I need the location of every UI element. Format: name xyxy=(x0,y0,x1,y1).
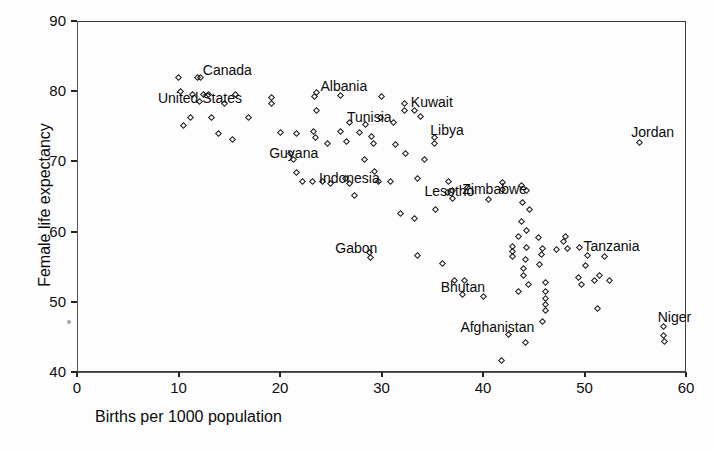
x-tick-label: 50 xyxy=(565,380,605,396)
x-tick-mark xyxy=(178,372,180,377)
y-tick-mark xyxy=(71,90,77,92)
chart-canvas: 405060708090 0102030405060 CanadaUnited … xyxy=(0,0,714,451)
point-label: Kuwait xyxy=(411,95,453,109)
point-label: Libya xyxy=(430,123,463,137)
y-tick-mark xyxy=(71,231,77,233)
point-label: Canada xyxy=(203,63,252,77)
point-label: Zimbabwe xyxy=(462,182,527,196)
point-label: Niger xyxy=(658,310,691,324)
y-axis-line xyxy=(77,21,78,373)
x-tick-label: 20 xyxy=(260,380,300,396)
y-tick-mark xyxy=(71,20,77,22)
x-tick-mark xyxy=(279,372,281,377)
point-label: Jordan xyxy=(631,125,674,139)
point-label: United States xyxy=(158,91,242,105)
x-tick-mark xyxy=(76,372,78,377)
x-tick-mark xyxy=(685,372,687,377)
point-label: Afghanistan xyxy=(460,320,534,334)
x-tick-label: 10 xyxy=(159,380,199,396)
point-label: Guyana xyxy=(269,146,318,160)
point-label: Albania xyxy=(321,79,368,93)
x-tick-label: 30 xyxy=(362,380,402,396)
x-axis-title: Births per 1000 population xyxy=(95,408,282,426)
x-tick-label: 60 xyxy=(666,380,706,396)
point-label: Bhutan xyxy=(441,280,485,294)
x-tick-label: 0 xyxy=(57,380,97,396)
x-tick-mark xyxy=(482,372,484,377)
point-label: Tunisia xyxy=(347,110,392,124)
y-tick-label: 90 xyxy=(30,13,66,28)
y-tick-mark xyxy=(71,301,77,303)
y-axis-title: Female life expectancy xyxy=(36,80,54,330)
point-label: Tanzania xyxy=(583,239,639,253)
x-tick-mark xyxy=(584,372,586,377)
y-tick-label: 40 xyxy=(30,364,66,379)
plot-frame xyxy=(77,21,686,372)
y-tick-mark xyxy=(71,160,77,162)
x-tick-label: 40 xyxy=(463,380,503,396)
x-tick-mark xyxy=(381,372,383,377)
scan-artifact xyxy=(67,320,71,324)
point-label: Gabon xyxy=(335,241,377,255)
point-label: Indonesia xyxy=(319,171,380,185)
